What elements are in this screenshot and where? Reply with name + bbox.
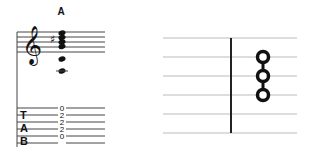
tab-label-a: A [20, 122, 28, 134]
tab-fret: 0 [60, 132, 65, 141]
tab-label-b: B [20, 135, 28, 147]
fret-dot [258, 90, 269, 101]
treble-clef-icon: 𝄞 [22, 24, 42, 66]
fretboard-diagram [163, 38, 297, 133]
tab-label-t: T [20, 109, 27, 121]
fret-dot [258, 52, 269, 63]
sharp-icon: ♯ [50, 33, 55, 46]
chord-name: A [57, 6, 64, 17]
fret-dot [258, 71, 269, 82]
chord-diagram: A 𝄞 ♯ T A B 0 2 [0, 0, 313, 154]
